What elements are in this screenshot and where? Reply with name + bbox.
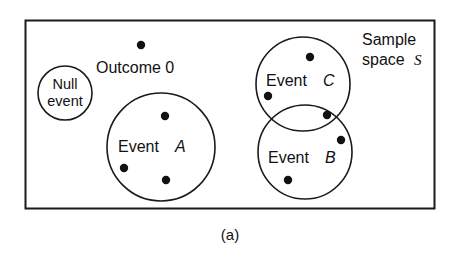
- sample-space-symbol: S: [414, 52, 422, 68]
- outcome-dot-b-1: [337, 136, 345, 144]
- event-a-label-prefix: Event: [118, 138, 159, 155]
- null-event-label-line2: event: [47, 93, 82, 109]
- outcome-dot-free-0: [137, 41, 145, 49]
- outcome-annotation-label: Outcome 0: [96, 59, 174, 76]
- outcome-dot-a-2: [120, 164, 128, 172]
- event-b-label-symbol: B: [325, 149, 336, 166]
- sample-space-label-line1: Sample: [362, 31, 416, 48]
- event-a-label-symbol: A: [174, 138, 186, 155]
- event-c-label-prefix: Event: [266, 72, 307, 89]
- outcome-dot-c-1: [306, 53, 314, 61]
- outcome-dot-a-3: [162, 176, 170, 184]
- venn-diagram: Null event Outcome 0 Event A Event C Eve…: [0, 0, 460, 255]
- figure-caption: (a): [221, 226, 239, 243]
- outcome-dot-bc-intersection: [323, 111, 331, 119]
- outcome-dot-b-2: [284, 176, 292, 184]
- sample-space-rectangle: [26, 21, 435, 209]
- event-b-label-prefix: Event: [268, 149, 309, 166]
- outcome-dot-c-2: [264, 92, 272, 100]
- event-c-label-symbol: C: [323, 72, 335, 89]
- sample-space-label-line2: space: [362, 51, 405, 68]
- figure-container: Null event Outcome 0 Event A Event C Eve…: [0, 0, 460, 255]
- outcome-dot-a-1: [161, 112, 169, 120]
- null-event-label-line1: Null: [53, 76, 78, 92]
